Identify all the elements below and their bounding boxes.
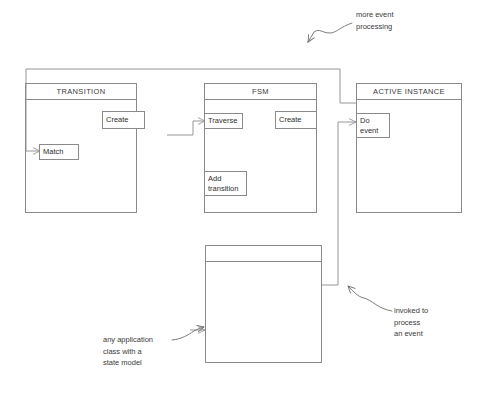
annotation-invoked-to-process-an-event: invoked to process an event [394,305,428,340]
method-box-active-instance-do-event[interactable]: Do event [356,113,390,138]
class-title-active-instance: ACTIVE INSTANCE [373,87,445,96]
class-header-active-instance: ACTIVE INSTANCE [357,84,461,100]
annotation-any-application-class: any application class with a state model [103,334,153,369]
method-label-transition-create: Create [106,115,144,125]
class-box-application-class[interactable] [205,245,322,363]
connector-into-fsm-traverse-stem [167,121,193,135]
method-box-fsm-traverse[interactable]: Traverse [204,113,243,129]
class-header-fsm: FSM [205,84,316,100]
method-label-fsm-traverse: Traverse [208,116,242,126]
annotation-more-event-processing: more event processing [356,9,394,32]
annotation-any-application-line2: class with a [103,346,153,358]
leader-any-application-class [172,327,204,340]
connector-bottom-box-to-active-instance [322,122,338,285]
annotation-more-event-processing-line2: processing [356,21,394,33]
method-label-do-event-line2: event [360,126,389,136]
method-label-fsm-add-transition-line2: transition [208,184,246,194]
method-label-do-event-line1: Do [360,116,389,126]
annotation-any-application-line3: state model [103,357,153,369]
class-box-active-instance[interactable]: ACTIVE INSTANCE [356,83,462,213]
method-label-transition-match: Match [43,147,78,157]
leader-more-event-processing [308,23,352,42]
annotation-invoked-line2: process [394,317,428,329]
method-box-transition-match[interactable]: Match [39,144,79,160]
diagram-canvas: TRANSITION Create Match FSM Traverse Cre… [0,0,481,393]
leader-invoked-to-process [348,286,392,311]
method-label-fsm-add-transition-line1: Add [208,174,246,184]
method-box-transition-create[interactable]: Create [102,111,145,129]
annotation-invoked-line1: invoked to [394,305,428,317]
class-title-fsm: FSM [252,87,269,96]
annotation-invoked-line3: an event [394,328,428,340]
method-label-fsm-create: Create [279,115,316,125]
method-box-fsm-add-transition[interactable]: Add transition [204,171,247,196]
method-box-fsm-create[interactable]: Create [275,111,317,129]
annotation-more-event-processing-line1: more event [356,9,394,21]
class-header-application-class [206,246,321,262]
annotation-any-application-line1: any application [103,334,153,346]
class-header-transition: TRANSITION [26,84,136,100]
class-title-transition: TRANSITION [57,87,106,96]
